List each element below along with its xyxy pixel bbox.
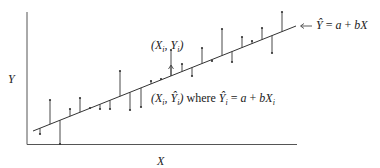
observed-point: [181, 63, 183, 65]
observed-point: [140, 106, 142, 108]
observed-point: [261, 27, 263, 29]
observed-point: [191, 75, 193, 77]
y-axis-label: Y: [8, 73, 15, 85]
fitted-point-label: (Xi, Ŷi) where Ŷi = a + bXi: [151, 92, 275, 107]
observed-point: [119, 70, 121, 72]
observed-point: [150, 80, 152, 82]
line-label-arrow: [301, 24, 313, 29]
observed-point: [79, 97, 81, 99]
observed-point: [129, 109, 131, 111]
observed-point: [251, 40, 253, 42]
observed-point: [49, 99, 51, 101]
x-axis-label: X: [157, 155, 164, 167]
observed-point: [160, 78, 162, 80]
observed-point: [39, 133, 41, 135]
fitted-point-arrow: [169, 65, 174, 76]
observed-point: [241, 36, 243, 38]
observed-point: [99, 108, 101, 110]
observed-point: [69, 108, 71, 110]
observed-point: [231, 61, 233, 63]
observed-point-label: (Xi, Yi): [151, 39, 184, 54]
observed-point: [211, 60, 213, 62]
observed-point: [59, 143, 61, 145]
observed-point: [201, 47, 203, 49]
observed-point: [271, 52, 273, 54]
observed-point: [221, 28, 223, 30]
observed-point: [89, 107, 91, 109]
residual-segments: [39, 11, 283, 145]
observed-point: [281, 11, 283, 13]
observed-point: [109, 108, 111, 110]
regression-equation-label: Ŷ = a + bX: [316, 19, 368, 31]
